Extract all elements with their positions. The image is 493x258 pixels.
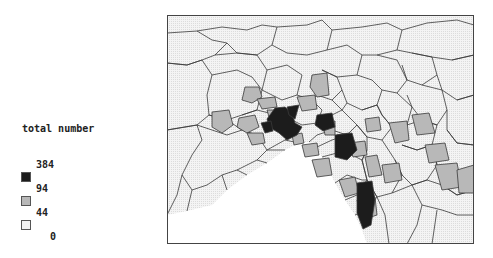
legend-swatch-high [21, 172, 31, 182]
legend-break-label: 94 [18, 183, 48, 194]
legend-swatch-low [21, 220, 31, 230]
map-legend: total number 384 94 44 0 [0, 0, 160, 258]
choropleth-map [167, 15, 474, 244]
legend-break-label: 44 [18, 207, 48, 218]
legend-break-label: 384 [24, 159, 54, 170]
legend-swatch-mid [21, 196, 31, 206]
legend-title: total number [22, 123, 94, 134]
legend-break-label: 0 [26, 231, 56, 242]
